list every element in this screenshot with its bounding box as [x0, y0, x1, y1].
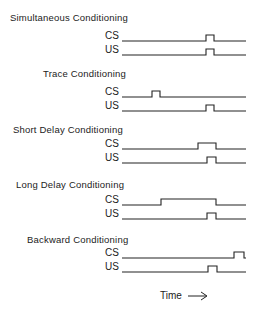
cs-waveform — [122, 35, 246, 41]
cs-waveform — [122, 252, 246, 258]
waveform-canvas — [0, 0, 255, 310]
cs-waveform — [122, 91, 246, 97]
us-waveform — [122, 213, 246, 219]
cs-waveform — [122, 199, 246, 205]
cs-waveform — [122, 143, 246, 149]
us-waveform — [122, 266, 246, 272]
arrow-right-icon — [188, 292, 207, 300]
us-waveform — [122, 157, 246, 163]
time-axis-label: Time — [160, 290, 182, 301]
us-waveform — [122, 105, 246, 111]
us-waveform — [122, 49, 246, 55]
time-label-text: Time — [160, 290, 182, 301]
